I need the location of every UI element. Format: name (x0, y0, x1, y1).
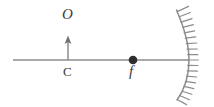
mirror-hatch-mark (177, 6, 188, 11)
optics-diagram-svg (0, 0, 214, 107)
mirror-hatch-mark (178, 100, 187, 105)
object-label: O (62, 7, 73, 22)
center-of-curvature-label: C (63, 65, 72, 78)
mirror-hatch-mark (185, 81, 195, 83)
mirror-hatch-mark (186, 76, 196, 77)
mirror-hatch-mark (186, 43, 196, 44)
mirror-hatch-mark (182, 91, 192, 94)
mirror-hatch-mark (184, 86, 194, 88)
mirror-hatch-mark (185, 37, 196, 38)
mirror-hatch-mark (184, 31, 195, 33)
mirror-hatch-mark (179, 13, 190, 17)
optics-diagram-canvas: O C f (0, 0, 214, 107)
mirror-hatch-mark (180, 96, 189, 100)
mirror-hatch-mark (181, 19, 192, 23)
mirror-hatch-mark (183, 25, 194, 28)
focal-point-label: f (129, 64, 133, 79)
concave-mirror-arc (177, 10, 190, 100)
